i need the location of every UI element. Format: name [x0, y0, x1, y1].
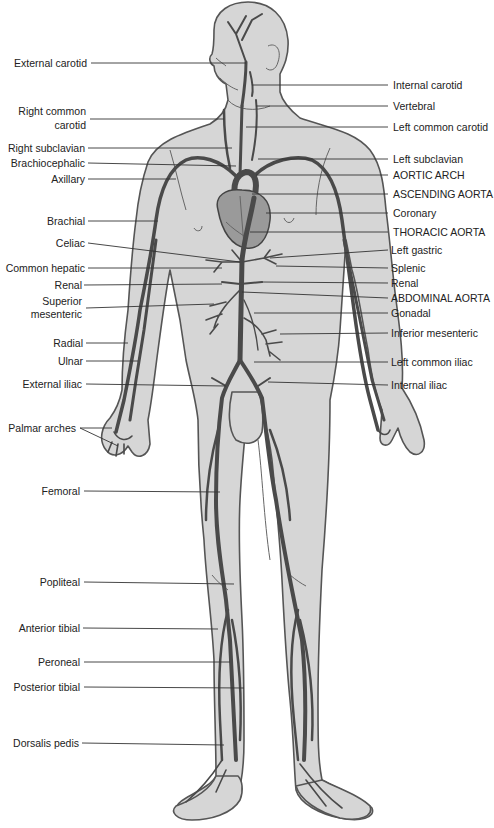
label-renal-right: Renal: [391, 277, 418, 289]
label-internal-iliac: Internal iliac: [391, 379, 447, 391]
label-right-common-carotid: Right common: [18, 105, 86, 117]
label-left-common-iliac: Left common iliac: [391, 356, 473, 368]
label-celiac: Celiac: [56, 237, 85, 249]
label-brachiocephalic: Brachiocephalic: [11, 157, 85, 169]
label-gonadal: Gonadal: [391, 307, 431, 319]
label-ulnar: Ulnar: [58, 355, 84, 367]
label-radial: Radial: [53, 337, 83, 349]
label-anterior-tibial: Anterior tibial: [19, 622, 80, 634]
label-axillary: Axillary: [51, 173, 86, 185]
label-superior-mesenteric: Superior: [42, 295, 82, 307]
label-external-carotid: External carotid: [14, 57, 87, 69]
label-femoral: Femoral: [41, 485, 80, 497]
label-popliteal: Popliteal: [40, 576, 80, 588]
artery-diagram: External carotid Right common carotid Ri…: [0, 0, 494, 828]
label-coronary: Coronary: [393, 207, 437, 219]
labels-right: Internal carotid Vertebral Left common c…: [391, 79, 493, 391]
label-posterior-tibial: Posterior tibial: [13, 681, 80, 693]
label-internal-carotid: Internal carotid: [393, 79, 463, 91]
label-abdominal-aorta: ABDOMINAL AORTA: [391, 292, 490, 304]
label-peroneal: Peroneal: [38, 656, 80, 668]
label-right-common-carotid-line2: carotid: [54, 119, 86, 131]
label-brachial: Brachial: [47, 215, 85, 227]
label-palmar-arches: Palmar arches: [8, 422, 76, 434]
label-inferior-mesenteric: Inferior mesenteric: [391, 327, 478, 339]
label-external-iliac: External iliac: [22, 378, 82, 390]
label-ascending-aorta: ASCENDING AORTA: [393, 188, 493, 200]
label-right-subclavian: Right subclavian: [8, 142, 85, 154]
label-left-gastric: Left gastric: [391, 244, 442, 256]
label-left-common-carotid: Left common carotid: [393, 121, 488, 133]
label-common-hepatic: Common hepatic: [6, 262, 85, 274]
labels-left: External carotid Right common carotid Ri…: [6, 57, 88, 749]
label-thoracic-aorta: THORACIC AORTA: [393, 226, 485, 238]
label-dorsalis-pedis: Dorsalis pedis: [13, 737, 79, 749]
label-superior-mesenteric-line2: mesenteric: [31, 308, 82, 320]
label-splenic: Splenic: [391, 262, 425, 274]
label-vertebral: Vertebral: [393, 100, 435, 112]
label-renal-left: Renal: [55, 279, 82, 291]
label-aortic-arch: AORTIC ARCH: [393, 169, 465, 181]
label-left-subclavian: Left subclavian: [393, 153, 463, 165]
